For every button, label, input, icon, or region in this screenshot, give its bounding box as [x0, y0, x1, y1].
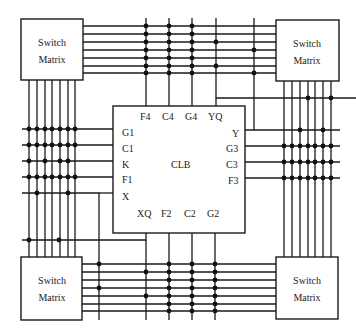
switch-matrix-label: Matrix: [38, 54, 65, 65]
pin-c4: C4: [162, 111, 174, 122]
pin-f1: F1: [122, 174, 133, 185]
switch-matrix-top-right: Switch Matrix: [276, 20, 339, 81]
switch-matrix-bottom-right: Switch Matrix: [276, 257, 338, 319]
switch-matrix-top-left: Switch Matrix: [21, 19, 83, 80]
switch-matrix-label: Matrix: [293, 55, 320, 66]
pin-f3: F3: [228, 175, 239, 186]
top-horizontal-channel: [83, 26, 276, 73]
pin-y: Y: [232, 128, 239, 139]
pin-xq: XQ: [137, 208, 152, 219]
pin-yq: YQ: [208, 111, 223, 122]
pin-c3: C3: [226, 159, 238, 170]
pin-g2: G2: [207, 208, 219, 219]
right-vertical-channel: [284, 81, 331, 257]
pin-f4: F4: [140, 111, 151, 122]
pin-c1: C1: [122, 143, 134, 154]
switch-matrix-bottom-left: Switch Matrix: [21, 257, 82, 320]
bottom-horizontal-channel: [82, 264, 276, 311]
switch-matrix-label: Switch: [38, 37, 66, 48]
pin-k: K: [122, 159, 130, 170]
pin-g1: G1: [122, 127, 134, 138]
switch-matrix-label: Switch: [38, 275, 66, 286]
pin-g3: G3: [226, 143, 238, 154]
left-vertical-channel: [29, 80, 75, 257]
clb-block: CLB F4 C4 G4 YQ G1 C1 K F1 X Y G3 C3 F3 …: [113, 106, 245, 233]
pin-x: X: [122, 191, 130, 202]
switch-matrix-label: Matrix: [38, 292, 65, 303]
pin-g4: G4: [185, 111, 197, 122]
switch-matrix-label: Matrix: [293, 292, 320, 303]
clb-label: CLB: [171, 159, 191, 170]
pin-f2: F2: [161, 208, 172, 219]
switch-matrix-label: Switch: [293, 38, 321, 49]
pin-c2: C2: [184, 208, 196, 219]
clb-interconnect-diagram: Switch Matrix Switch Matrix Switch Matri…: [0, 0, 356, 335]
switch-matrix-label: Switch: [293, 275, 321, 286]
